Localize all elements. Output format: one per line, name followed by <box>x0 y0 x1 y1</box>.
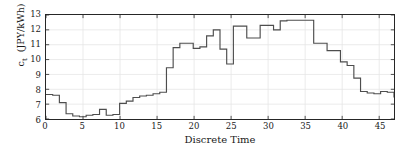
y-axis-tick-7: 7 <box>1 101 41 110</box>
price-series-stairstep <box>46 15 394 119</box>
x-axis-tick-45: 45 <box>375 122 386 131</box>
y-axis-tick-10: 10 <box>1 55 41 64</box>
y-axis-tick-11: 11 <box>1 40 41 49</box>
plot-area <box>45 14 395 120</box>
x-axis-tick-0: 0 <box>42 122 47 131</box>
y-axis-tick-6: 6 <box>1 116 41 125</box>
x-axis-tick-35: 35 <box>300 122 311 131</box>
x-axis-tick-5: 5 <box>80 122 85 131</box>
y-axis-tick-13: 13 <box>1 10 41 19</box>
x-axis-tick-15: 15 <box>151 122 162 131</box>
y-axis-tick-labels: 678910111213 <box>0 14 43 120</box>
y-axis-tick-8: 8 <box>1 85 41 94</box>
x-axis-label: Discrete Time <box>45 134 395 145</box>
y-axis-tick-12: 12 <box>1 25 41 34</box>
x-axis-tick-30: 30 <box>263 122 274 131</box>
x-axis-tick-25: 25 <box>226 122 237 131</box>
y-axis-tick-9: 9 <box>1 70 41 79</box>
chart-figure: ct (JPY/kWh) 678910111213 05101520253035… <box>0 0 401 154</box>
x-axis-tick-40: 40 <box>337 122 348 131</box>
x-axis-tick-20: 20 <box>189 122 200 131</box>
x-axis-tick-10: 10 <box>114 122 125 131</box>
